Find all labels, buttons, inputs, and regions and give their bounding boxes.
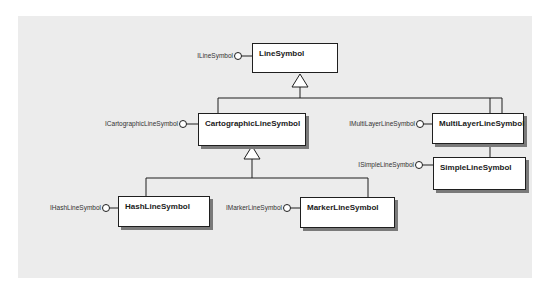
interface-label: ISimpleLineSymbol	[358, 161, 414, 168]
class-name: HashLineSymbol	[125, 202, 190, 211]
interface-label: IMarkerLineSymbol	[226, 204, 282, 211]
class-name: MultiLayerLineSymbol	[439, 119, 524, 128]
class-name: SimpleLineSymbol	[440, 163, 512, 172]
interface-label: ILineSymbol	[197, 52, 233, 59]
class-hashlinesymbol[interactable]: HashLineSymbol	[118, 196, 210, 227]
class-multilayerlinesymbol[interactable]: MultiLayerLineSymbol	[432, 113, 524, 144]
class-simplelinesymbol[interactable]: SimpleLineSymbol	[433, 157, 526, 190]
class-name: MarkerLineSymbol	[307, 203, 379, 212]
class-cartographiclinesymbol[interactable]: CartographicLineSymbol	[198, 113, 306, 146]
interface-label: ICartographicLineSymbol	[105, 120, 178, 127]
generalization-arrow-icon	[244, 146, 260, 159]
generalization-arrow-icon	[292, 74, 308, 87]
class-linesymbol[interactable]: LineSymbol	[252, 43, 338, 73]
class-markerlinesymbol[interactable]: MarkerLineSymbol	[300, 197, 395, 228]
interface-label: IMultiLayerLineSymbol	[349, 120, 415, 127]
class-name: CartographicLineSymbol	[205, 119, 300, 128]
interface-label: IHashLineSymbol	[50, 204, 101, 211]
class-name: LineSymbol	[259, 49, 304, 58]
